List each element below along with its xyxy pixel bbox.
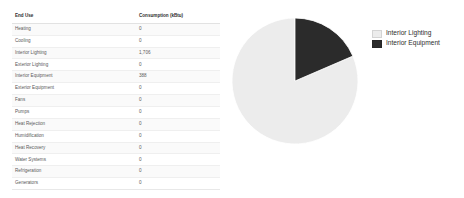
table-row: Generators0 — [12, 178, 220, 190]
cell-consumption: 1,706 — [136, 47, 220, 59]
cell-consumption: 0 — [136, 142, 220, 154]
cell-end-use: Refrigeration — [12, 166, 136, 178]
cell-end-use: Interior Lighting — [12, 47, 136, 59]
column-header-end-use: End Use — [12, 13, 136, 23]
legend-swatch-icon — [372, 30, 382, 38]
cell-end-use: Generators — [12, 178, 136, 190]
cell-consumption: 388 — [136, 71, 220, 83]
cell-end-use: Cooling — [12, 35, 136, 47]
cell-end-use: Fans — [12, 95, 136, 107]
cell-end-use: Exterior Equipment — [12, 83, 136, 95]
pie-chart-svg — [228, 14, 362, 148]
cell-consumption: 0 — [136, 166, 220, 178]
cell-consumption: 0 — [136, 95, 220, 107]
table-row: Exterior Equipment0 — [12, 83, 220, 95]
pie-slices — [232, 18, 358, 144]
cell-end-use: Pumps — [12, 106, 136, 118]
table-row: Interior Lighting1,706 — [12, 47, 220, 59]
table-row: Cooling0 — [12, 35, 220, 47]
table-row: Heat Rejection0 — [12, 118, 220, 130]
cell-consumption: 0 — [136, 106, 220, 118]
pie-chart — [228, 0, 362, 198]
table-row: Interior Equipment388 — [12, 71, 220, 83]
chart-legend: Interior LightingInterior Equipment — [372, 30, 440, 48]
cell-consumption: 0 — [136, 83, 220, 95]
end-use-table: End Use Consumption (kBtu) Heating0Cooli… — [12, 13, 220, 190]
end-use-table-panel: End Use Consumption (kBtu) Heating0Cooli… — [0, 0, 228, 190]
cell-end-use: Interior Equipment — [12, 71, 136, 83]
cell-consumption: 0 — [136, 178, 220, 190]
cell-consumption: 0 — [136, 23, 220, 35]
legend-item[interactable]: Interior Equipment — [372, 40, 440, 48]
cell-consumption: 0 — [136, 130, 220, 142]
cell-consumption: 0 — [136, 35, 220, 47]
pie-chart-panel: Interior LightingInterior Equipment — [228, 0, 464, 198]
table-header: End Use Consumption (kBtu) — [12, 13, 220, 23]
energy-end-use-report: End Use Consumption (kBtu) Heating0Cooli… — [0, 0, 464, 198]
legend-swatch-icon — [372, 40, 382, 48]
cell-end-use: Exterior Lighting — [12, 59, 136, 71]
table-row: Heat Recovery0 — [12, 142, 220, 154]
table-row: Humidification0 — [12, 130, 220, 142]
table-row: Pumps0 — [12, 106, 220, 118]
table-row: Heating0 — [12, 23, 220, 35]
cell-consumption: 0 — [136, 118, 220, 130]
table-row: Refrigeration0 — [12, 166, 220, 178]
cell-end-use: Heat Recovery — [12, 142, 136, 154]
table-row: Exterior Lighting0 — [12, 59, 220, 71]
cell-end-use: Heating — [12, 23, 136, 35]
table-row: Fans0 — [12, 95, 220, 107]
cell-end-use: Water Systems — [12, 154, 136, 166]
column-header-consumption: Consumption (kBtu) — [136, 13, 220, 23]
cell-end-use: Heat Rejection — [12, 118, 136, 130]
legend-item[interactable]: Interior Lighting — [372, 30, 440, 38]
cell-consumption: 0 — [136, 59, 220, 71]
table-row: Water Systems0 — [12, 154, 220, 166]
table-body: Heating0Cooling0Interior Lighting1,706Ex… — [12, 23, 220, 189]
cell-consumption: 0 — [136, 154, 220, 166]
legend-label: Interior Lighting — [386, 30, 431, 37]
cell-end-use: Humidification — [12, 130, 136, 142]
table-header-row: End Use Consumption (kBtu) — [12, 13, 220, 23]
legend-label: Interior Equipment — [386, 40, 440, 47]
